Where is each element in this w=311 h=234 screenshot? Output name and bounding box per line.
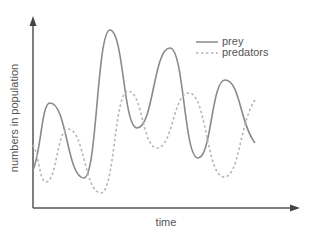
legend: prey predators <box>196 36 268 58</box>
predators-line <box>33 91 255 193</box>
y-axis-label: numbers in population <box>8 64 20 172</box>
solid-line-icon <box>196 39 218 45</box>
y-axis-arrow-icon <box>30 16 37 26</box>
x-axis-label: time <box>156 216 177 228</box>
legend-label: predators <box>222 47 268 58</box>
x-axis-arrow-icon <box>290 205 300 212</box>
dashed-line-icon <box>196 50 218 56</box>
legend-item-predators: predators <box>196 47 268 58</box>
x-axis <box>33 205 300 212</box>
y-axis <box>30 16 37 208</box>
predator-prey-chart: numbers in population time prey predator… <box>0 0 311 234</box>
